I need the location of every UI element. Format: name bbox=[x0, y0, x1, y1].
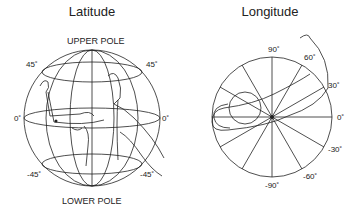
lat-right-45: 45˚ bbox=[146, 60, 158, 69]
lon-neg90: -90˚ bbox=[265, 181, 279, 190]
lat-left-neg45: -45˚ bbox=[27, 170, 41, 179]
upper-pole-label: UPPER POLE bbox=[67, 36, 125, 46]
lon-neg30: -30˚ bbox=[328, 145, 342, 154]
reference-dot bbox=[55, 120, 58, 123]
lon-neg60: -60˚ bbox=[303, 172, 317, 181]
lower-pole-label: LOWER POLE bbox=[62, 196, 122, 206]
latitude-globe bbox=[24, 50, 164, 186]
lon-30: 30˚ bbox=[328, 81, 340, 90]
center-dot bbox=[270, 115, 274, 119]
lon-90: 90˚ bbox=[268, 45, 280, 54]
lat-right-neg45: -45˚ bbox=[140, 170, 154, 179]
lon-60: 60˚ bbox=[304, 53, 316, 62]
lat-right-0: 0˚ bbox=[162, 114, 169, 123]
lat-left-0: 0˚ bbox=[14, 114, 21, 123]
diagram-canvas bbox=[0, 0, 361, 213]
lon-0: 0˚ bbox=[337, 113, 344, 122]
lat-left-45: 45˚ bbox=[26, 60, 38, 69]
